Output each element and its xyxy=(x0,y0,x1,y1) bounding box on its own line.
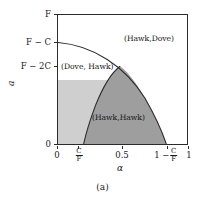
ytick-label-F-minus-C: F − C xyxy=(10,38,51,47)
figure-panel: F F − C F − 2C 0 0 C F 0.5 1 − C F 1 a α… xyxy=(0,0,205,205)
xtick-label-C-over-F: C F xyxy=(75,148,83,163)
ytick-mark-F xyxy=(54,14,57,15)
region-label-hawk-dove: (Hawk,Dove) xyxy=(124,35,174,43)
ytick-label-F-minus-2C: F − 2C xyxy=(4,62,51,71)
xtick-label-0: 0 xyxy=(54,151,59,160)
fraction-numerator: C xyxy=(170,148,177,155)
xtick-mark-1 xyxy=(188,146,189,149)
fraction-c-over-f: C F xyxy=(75,148,82,163)
xtick-prefix: 1 − xyxy=(154,150,169,160)
y-axis-label: a xyxy=(6,81,16,86)
fraction-denominator: F xyxy=(170,155,177,163)
xtick-label-1-minus-C-over-F: 1 − C F xyxy=(154,148,178,163)
region-label-hawk-hawk: (Hawk,Hawk) xyxy=(92,114,145,122)
xtick-label-0.5: 0.5 xyxy=(115,151,129,160)
fraction-c-over-f-2: C F xyxy=(170,148,177,163)
xtick-label-1: 1 xyxy=(186,151,191,160)
ytick-mark-F-2C xyxy=(54,66,57,67)
fraction-numerator: C xyxy=(75,148,82,155)
fraction-denominator: F xyxy=(75,155,82,163)
ytick-label-0: 0 xyxy=(10,140,51,149)
x-axis-label: α xyxy=(117,163,123,173)
figure-caption: (a) xyxy=(0,182,205,192)
ytick-mark-F-C xyxy=(54,42,57,43)
ytick-label-F: F xyxy=(10,10,51,19)
xtick-mark-0.5 xyxy=(122,146,123,149)
ytick-mark-0 xyxy=(54,144,57,145)
xtick-mark-0 xyxy=(57,146,58,149)
region-label-dove-hawk: (Dove, Hawk) xyxy=(61,63,113,71)
